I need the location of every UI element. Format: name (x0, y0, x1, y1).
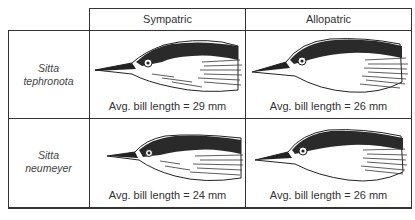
table-border-right (411, 8, 412, 208)
table-border-left (8, 30, 9, 208)
species-genus: Sitta (9, 149, 88, 162)
nuthatch-head-illustration (253, 124, 409, 186)
row-label-sitta-neumeyer: Sitta neumeyer (9, 149, 88, 175)
column-header-allopatric: Allopatric (246, 9, 411, 30)
nuthatch-head-short-bill-illustration (105, 128, 245, 186)
row-label-sitta-tephronota: Sitta tephronota (9, 62, 88, 88)
nuthatch-head-illustration (250, 32, 410, 98)
caption-tephronota-allopatric: Avg. bill length = 26 mm (246, 100, 411, 112)
species-genus: Sitta (9, 62, 88, 75)
column-header-sympatric: Sympatric (90, 9, 245, 30)
species-epithet: neumeyer (9, 162, 88, 175)
table-divider-row (8, 118, 411, 119)
species-epithet: tephronota (9, 75, 88, 88)
table-border-header-bottom (8, 30, 411, 31)
nuthatch-head-long-bill-illustration (92, 32, 244, 96)
caption-neumeyer-allopatric: Avg. bill length = 26 mm (246, 189, 411, 201)
table-border-bottom (8, 207, 412, 209)
caption-tephronota-sympatric: Avg. bill length = 29 mm (90, 100, 245, 112)
caption-neumeyer-sympatric: Avg. bill length = 24 mm (90, 189, 245, 201)
